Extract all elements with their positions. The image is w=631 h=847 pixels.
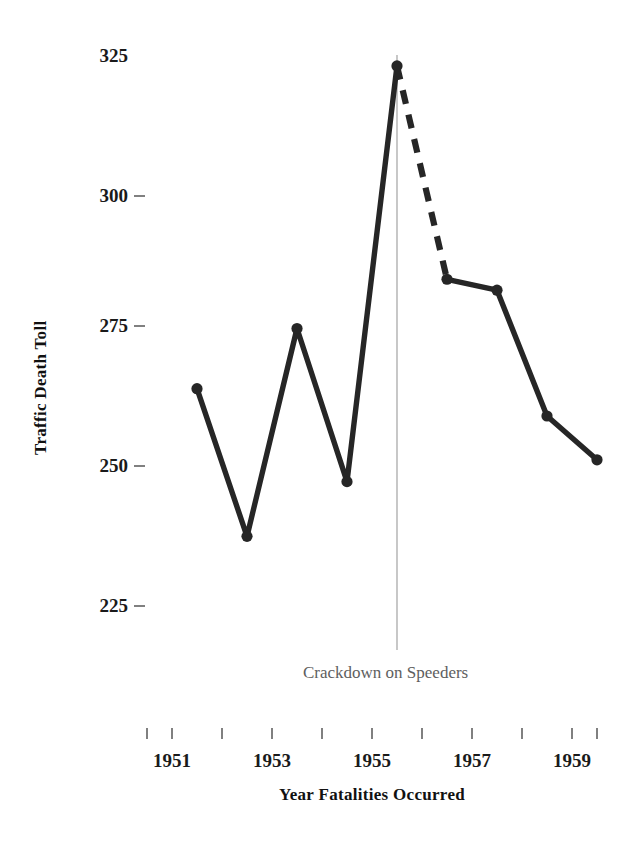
y-tick-label-225: 225 — [100, 595, 129, 616]
series-line-solid — [197, 66, 397, 536]
y-axis-title: Traffic Death Toll — [31, 321, 50, 455]
y-tick-label-300: 300 — [100, 185, 129, 206]
x-axis-tick-marks — [147, 728, 597, 739]
series-line-solid — [447, 279, 597, 460]
data-point-1951[interactable] — [191, 383, 202, 394]
data-point-1952[interactable] — [241, 531, 252, 542]
data-point-1957[interactable] — [491, 285, 502, 296]
data-point-1958[interactable] — [541, 410, 552, 421]
y-tick-label-250: 250 — [100, 455, 129, 476]
y-tick-label-325: 325 — [100, 45, 129, 66]
y-tick-label-275: 275 — [100, 315, 129, 336]
x-tick-label-1951: 1951 — [153, 750, 191, 771]
chart-container: 325 300 275 250 225 Traffic Death Toll C… — [0, 0, 631, 847]
x-tick-label-1955: 1955 — [353, 750, 391, 771]
y-axis-tick-marks — [134, 196, 145, 606]
data-point-1954[interactable] — [341, 476, 352, 487]
crackdown-annotation-label: Crackdown on Speeders — [303, 663, 468, 682]
x-tick-label-1953: 1953 — [253, 750, 291, 771]
series-line-dashed — [397, 66, 447, 279]
x-axis-title: Year Fatalities Occurred — [279, 785, 465, 804]
data-point-1955[interactable] — [391, 60, 402, 71]
x-tick-label-1957: 1957 — [453, 750, 492, 771]
data-point-1959[interactable] — [591, 454, 602, 465]
data-point-1953[interactable] — [291, 323, 302, 334]
x-tick-label-1959: 1959 — [553, 750, 591, 771]
line-chart: 325 300 275 250 225 Traffic Death Toll C… — [0, 0, 631, 847]
data-point-1956[interactable] — [441, 274, 452, 285]
x-axis-tick-labels: 1951 1953 1955 1957 1959 — [153, 750, 591, 771]
y-axis-tick-labels: 325 300 275 250 225 — [100, 45, 129, 616]
